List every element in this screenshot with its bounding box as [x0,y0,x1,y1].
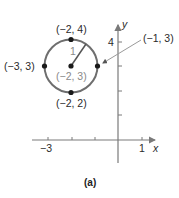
label-right-point: (−1, 3) [143,32,174,44]
x-axis: −3 1 x [32,137,159,154]
point-top [68,37,73,42]
figure-caption: (a) [84,177,96,188]
x-axis-label: x [152,142,159,154]
label-center-point: (−2, 3) [56,70,87,82]
circle-plot: 1 (−2, 4) (−3, 3) (−2, 2) (−2, 3) [4,23,100,109]
x-tick-label-1: 1 [139,142,145,154]
circle-graph-figure: −3 1 x 4 y 1 (−2, 4) (−3, 3) (−2, [0,0,179,198]
label-top-point: (−2, 4) [56,23,87,35]
point-right [95,63,100,68]
label-bottom-point: (−2, 2) [56,97,87,109]
point-center [68,63,73,68]
x-tick-label-neg3: −3 [40,142,52,154]
label-left-point: (−3, 3) [4,60,35,72]
point-bottom [68,90,73,95]
point-left [42,63,47,68]
radius-label: 1 [70,45,76,57]
y-axis-label: y [121,18,128,30]
y-axis: 4 y [108,18,128,163]
y-tick-label-4: 4 [108,36,114,48]
